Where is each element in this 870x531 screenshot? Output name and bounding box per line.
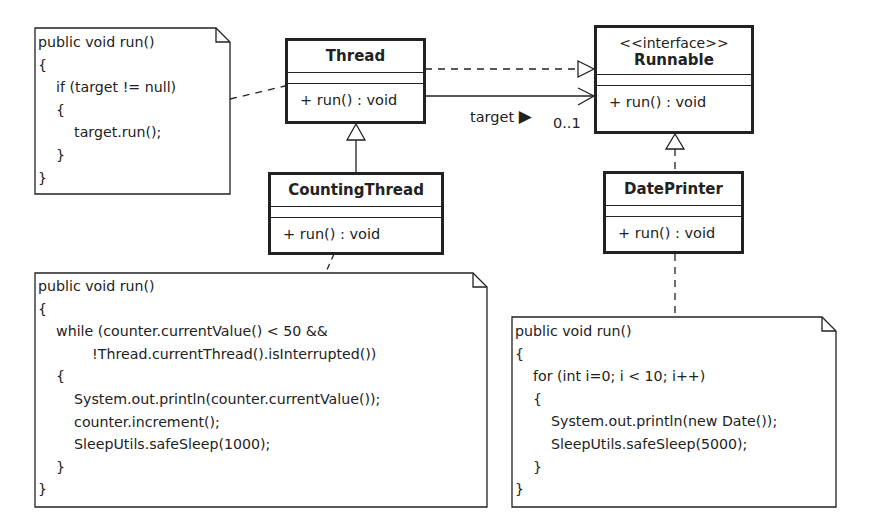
code-line: while (counter.currentValue() < 50 && [38, 323, 328, 339]
code-line: { [38, 368, 65, 384]
direction-triangle-icon: ▶ [519, 106, 532, 126]
note-anchor-thread [230, 86, 285, 99]
code-line: } [515, 481, 524, 497]
code-line: { [38, 102, 65, 118]
code-line: for (int i=0; i < 10; i++) [515, 368, 705, 384]
realization-arrowhead-icon [666, 134, 684, 149]
code-line: !Thread.currentThread().isInterrupted()) [38, 346, 376, 362]
compartment-divider [271, 206, 441, 217]
stereotype-label: <<interface>> [597, 28, 751, 51]
class-dateprinter[interactable]: DatePrinter + run() : void [603, 171, 744, 254]
code-line: System.out.println(new Date()); [515, 413, 777, 429]
class-operation: + run() : void [606, 217, 741, 241]
class-name: CountingThread [271, 175, 441, 206]
multiplicity-label: 0..1 [553, 115, 581, 131]
realization-arrowhead-icon [578, 61, 594, 77]
code-line: } [515, 459, 542, 475]
code-line: public void run() [38, 34, 155, 50]
code-line: public void run() [38, 278, 155, 294]
note-countingthread-run: public void run() { while (counter.curre… [34, 272, 488, 508]
class-countingthread[interactable]: CountingThread + run() : void [268, 172, 444, 255]
code-line: } [38, 459, 65, 475]
code-line: SleepUtils.safeSleep(5000); [515, 436, 747, 452]
compartment-divider [597, 74, 751, 85]
code-line: target.run(); [38, 124, 161, 140]
code-line: System.out.println(counter.currentValue(… [38, 391, 380, 407]
code-line: { [38, 57, 47, 73]
code-line: } [38, 170, 47, 186]
note-code: public void run() { for (int i=0; i < 10… [515, 320, 777, 501]
note-code: public void run() { while (counter.curre… [38, 275, 380, 501]
generalization-arrowhead-icon [347, 124, 365, 140]
interface-runnable[interactable]: <<interface>> Runnable + run() : void [594, 25, 754, 134]
compartment-divider [606, 205, 741, 216]
class-name: Thread [288, 41, 423, 72]
note-thread-run: public void run() { if (target != null) … [34, 27, 231, 195]
code-line: } [38, 481, 47, 497]
code-line: if (target != null) [38, 79, 176, 95]
code-line: } [38, 147, 65, 163]
class-operation: + run() : void [271, 218, 441, 242]
class-name: DatePrinter [606, 174, 741, 205]
code-line: counter.increment(); [38, 414, 220, 430]
note-dateprinter-run: public void run() { for (int i=0; i < 10… [511, 316, 837, 508]
code-line: { [515, 391, 542, 407]
code-line: { [515, 346, 524, 362]
code-line: public void run() [515, 323, 632, 339]
note-code: public void run() { if (target != null) … [38, 31, 176, 189]
note-anchor-countingthread [326, 254, 334, 272]
class-operation: + run() : void [288, 84, 423, 108]
role-text: target [470, 109, 514, 125]
code-line: SleepUtils.safeSleep(1000); [38, 436, 270, 452]
class-name: Runnable [597, 51, 751, 74]
code-line: { [38, 301, 47, 317]
class-thread[interactable]: Thread + run() : void [285, 38, 426, 124]
class-operation: + run() : void [597, 86, 751, 110]
association-role-label: target ▶ [470, 106, 532, 126]
compartment-divider [288, 72, 423, 83]
